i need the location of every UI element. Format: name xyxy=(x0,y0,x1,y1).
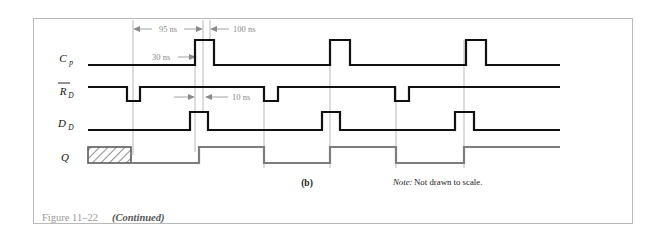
note-body: Not drawn to scale. xyxy=(414,177,482,187)
svg-text:D: D xyxy=(57,117,66,129)
signal-label-rd: R D xyxy=(58,83,74,100)
timing-diagram: 95 ns 100 ns 30 ns 10 ns C p xyxy=(0,0,668,249)
annotation-95ns-label: 95 ns xyxy=(159,24,177,34)
figure-caption: Figure 11–22 (Continued) xyxy=(42,212,165,224)
svg-text:p: p xyxy=(68,58,73,67)
waveform-rd xyxy=(88,87,560,101)
annotation-30ns: 30 ns xyxy=(152,52,196,62)
figure-page: 95 ns 100 ns 30 ns 10 ns C p xyxy=(0,0,668,249)
annotation-100ns-label: 100 ns xyxy=(233,24,255,34)
figure-note: Note: Not drawn to scale. xyxy=(392,177,482,187)
annotation-95ns: 95 ns xyxy=(133,22,203,35)
annotation-10ns: 10 ns xyxy=(174,92,250,102)
signal-labels: C p R D D D Q xyxy=(57,52,74,163)
note-prefix: Note: xyxy=(392,177,413,187)
signal-label-q: Q xyxy=(61,151,69,163)
svg-text:R: R xyxy=(59,85,67,97)
panel-label: (b) xyxy=(301,178,313,189)
annotation-100ns: 100 ns xyxy=(210,24,255,34)
svg-text:D: D xyxy=(67,123,74,132)
signal-label-cp: C p xyxy=(59,52,73,67)
caption-note: (Continued) xyxy=(112,212,165,224)
signal-label-dd: D D xyxy=(57,117,74,132)
caption-label: Figure 11–22 xyxy=(42,212,98,223)
svg-text:C: C xyxy=(59,52,67,64)
waveform-q xyxy=(131,147,560,163)
waveform-dd xyxy=(88,112,560,130)
svg-text:Q: Q xyxy=(61,151,69,163)
guidelines xyxy=(133,20,464,168)
svg-text:D: D xyxy=(67,91,74,100)
q-unknown-region xyxy=(88,147,131,163)
annotation-10ns-label: 10 ns xyxy=(232,92,250,102)
annotation-30ns-label: 30 ns xyxy=(152,52,170,62)
